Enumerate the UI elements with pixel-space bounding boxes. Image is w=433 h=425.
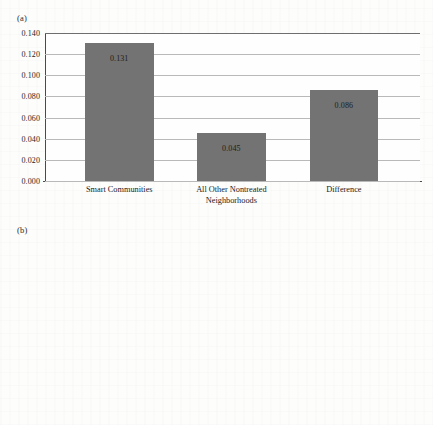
y-axis-tick-label: 0.020 xyxy=(22,155,41,164)
y-axis-tick-label: 0.100 xyxy=(22,71,41,80)
y-axis-tick-label: 0.000 xyxy=(22,177,41,186)
x-axis-category-label: Difference xyxy=(273,185,416,196)
y-axis-tick-label: 0.060 xyxy=(22,113,41,122)
gridline xyxy=(45,33,420,34)
panel-label-b: (b) xyxy=(17,225,28,235)
bar[interactable]: 0.086 xyxy=(310,90,379,181)
plot-area-a: 0.0000.0200.0400.0600.0800.1000.1200.140… xyxy=(45,33,420,181)
y-axis-tick-label: 0.140 xyxy=(22,29,41,38)
bar[interactable]: 0.045 xyxy=(197,133,266,181)
gridline xyxy=(45,181,420,182)
y-axis-line-a xyxy=(45,33,46,181)
chart-panel-b: (b) 0.0000.0200.0400.0600.0800.1000.1200… xyxy=(0,212,433,425)
y-axis-tick-label: 0.120 xyxy=(22,50,41,59)
bar-value-label: 0.131 xyxy=(85,54,154,63)
chart-panel-a: (a) 0.0000.0200.0400.0600.0800.1000.1200… xyxy=(0,0,433,212)
y-axis-tick-label: 0.040 xyxy=(22,134,41,143)
panel-label-a: (a) xyxy=(17,13,27,23)
bar[interactable]: 0.131 xyxy=(85,43,154,181)
bar-value-label: 0.086 xyxy=(310,101,379,110)
y-axis-tick-label: 0.080 xyxy=(22,92,41,101)
bar-value-label: 0.045 xyxy=(197,144,266,153)
